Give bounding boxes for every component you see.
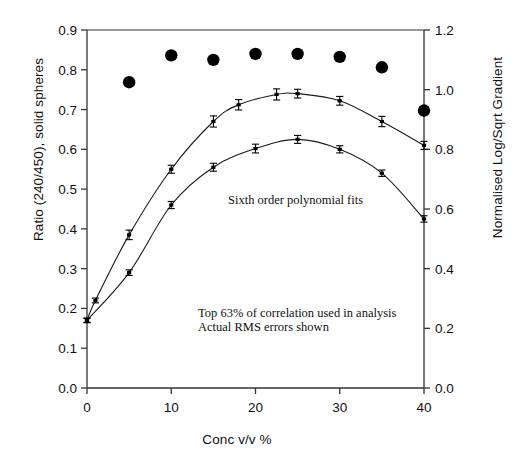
errorbar-marker	[211, 120, 215, 123]
errorbar-marker	[380, 172, 384, 175]
errorbar-marker	[422, 144, 426, 147]
annotation-analysis-line-2: Actual RMS errors shown	[198, 321, 396, 335]
y-tick-label-left: 0.4	[58, 222, 77, 237]
y-tick-label-left: 0.5	[58, 182, 77, 197]
y-tick-label-left: 0.2	[58, 301, 77, 316]
y-axis-label-right: Normalised Log/Sqrt Gradient	[490, 43, 505, 253]
data-point-errorbar	[83, 318, 90, 322]
data-point-errorbar	[378, 116, 385, 126]
data-point-circle	[291, 48, 303, 60]
data-point-errorbar	[210, 116, 217, 127]
data-point-errorbar	[336, 146, 343, 153]
y-tick-label-left: 0.1	[58, 341, 77, 356]
y-tick-label-right: 0.2	[435, 321, 454, 336]
y-axis-label-left: Ratio (240/450), solid spheres	[31, 50, 46, 250]
errorbar-marker	[127, 271, 131, 274]
y-tick-label-right: 0.0	[435, 381, 454, 396]
data-point-circle	[334, 51, 346, 63]
series-line	[87, 139, 424, 320]
data-point-errorbar	[92, 298, 99, 303]
data-point-circle	[123, 76, 135, 88]
errorbar-marker	[253, 147, 257, 150]
data-point-errorbar	[210, 163, 217, 171]
errorbar-marker	[169, 203, 173, 206]
x-axis-label: Conc v/v %	[0, 432, 474, 447]
figure-caption-fragment	[12, 452, 352, 462]
x-tick-label: 0	[83, 400, 91, 415]
data-point-errorbar	[336, 96, 343, 105]
annotation-polynomial-fits: Sixth order polynomial fits	[228, 194, 363, 208]
y-tick-label-right: 0.4	[435, 262, 454, 277]
errorbar-marker	[237, 103, 241, 106]
y-tick-label-right: 1.2	[435, 23, 454, 38]
y-tick-label-left: 0.0	[58, 381, 77, 396]
data-point-circle	[418, 104, 430, 116]
y-tick-label-right: 0.6	[435, 202, 454, 217]
annotation-analysis-note: Top 63% of correlation used in analysis …	[198, 307, 396, 334]
errorbar-marker	[338, 148, 342, 151]
errorbar-marker	[380, 120, 384, 123]
chart-canvas: 0.00.10.20.30.40.50.60.70.80.90.00.20.40…	[0, 0, 518, 463]
errorbar-marker	[211, 166, 215, 169]
data-point-errorbar	[126, 270, 133, 276]
x-tick-label: 40	[416, 400, 431, 415]
errorbar-marker	[85, 319, 89, 322]
figure-container: 0.00.10.20.30.40.50.60.70.80.90.00.20.40…	[0, 0, 518, 463]
errorbar-marker	[169, 168, 173, 171]
errorbar-marker	[93, 299, 97, 302]
x-tick-label: 10	[164, 400, 179, 415]
data-point-errorbar	[252, 144, 259, 153]
data-point-circle	[207, 54, 219, 66]
errorbar-marker	[296, 138, 300, 141]
errorbar-marker	[274, 93, 278, 96]
data-point-errorbar	[420, 141, 427, 149]
errorbar-marker	[422, 217, 426, 220]
y-tick-label-right: 1.0	[435, 83, 454, 98]
y-tick-label-left: 0.8	[58, 63, 77, 78]
x-tick-label: 20	[248, 400, 263, 415]
data-point-circle	[165, 49, 177, 61]
data-point-circle	[249, 48, 261, 60]
y-tick-label-left: 0.9	[58, 23, 77, 38]
errorbar-marker	[338, 99, 342, 102]
errorbar-marker	[296, 92, 300, 95]
y-tick-label-right: 0.8	[435, 142, 454, 157]
y-tick-label-left: 0.7	[58, 103, 77, 118]
data-point-circle	[376, 61, 388, 73]
y-tick-label-left: 0.3	[58, 262, 77, 277]
y-tick-label-left: 0.6	[58, 142, 77, 157]
data-point-errorbar	[235, 100, 242, 110]
annotation-analysis-line-1: Top 63% of correlation used in analysis	[198, 307, 396, 321]
x-tick-label: 30	[332, 400, 347, 415]
errorbar-marker	[127, 233, 131, 236]
